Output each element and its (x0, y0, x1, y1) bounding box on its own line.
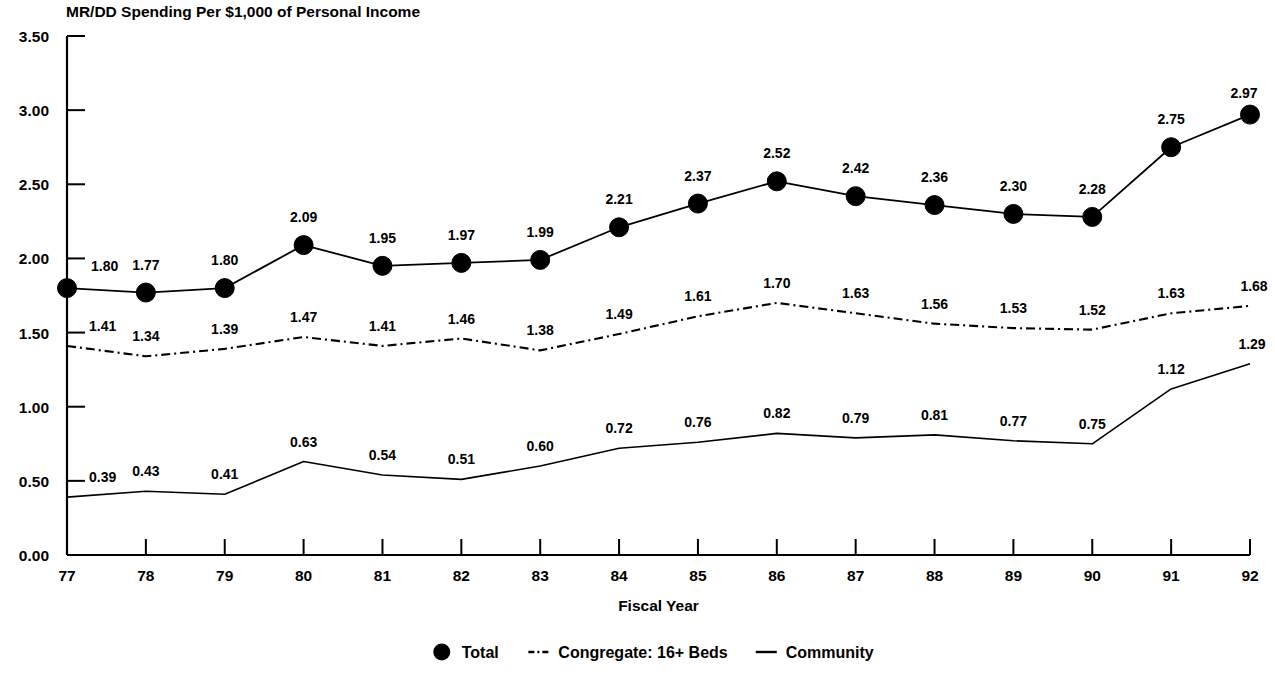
x-axis-tick-label: 83 (532, 567, 550, 584)
data-point-label: 0.60 (527, 438, 554, 454)
data-point-label: 2.75 (1158, 111, 1185, 127)
data-point-label: 0.76 (684, 414, 711, 430)
legend-label: Community (786, 644, 874, 661)
data-point-label: 2.09 (290, 209, 317, 225)
data-point-label: 1.52 (1079, 302, 1106, 318)
y-axis-tick-label: 2.50 (19, 176, 49, 193)
series-line-total (67, 115, 1250, 293)
data-point-marker (688, 194, 707, 213)
x-axis-tick-label: 92 (1241, 567, 1258, 584)
data-point-label: 1.47 (290, 309, 317, 325)
data-point-marker (294, 236, 313, 255)
data-point-label: 1.70 (763, 275, 790, 291)
data-point-label: 1.95 (369, 230, 396, 246)
data-point-label: 0.82 (763, 405, 790, 421)
x-axis-tick-label: 78 (137, 567, 155, 584)
data-point-marker (610, 218, 629, 237)
data-point-label: 1.41 (369, 318, 396, 334)
data-point-label: 2.37 (684, 168, 711, 184)
data-point-label: 1.80 (91, 258, 118, 274)
y-axis-tick-label: 1.50 (19, 325, 49, 342)
data-point-label: 2.30 (1000, 178, 1027, 194)
x-axis-tick-label: 85 (689, 567, 707, 584)
data-labels-layer: 1.801.771.802.091.951.971.992.212.372.52… (89, 85, 1268, 486)
chart-title: MR/DD Spending Per $1,000 of Personal In… (66, 3, 420, 20)
data-point-label: 1.97 (448, 227, 475, 243)
data-point-label: 0.77 (1000, 413, 1027, 429)
x-axis-tick-label: 87 (847, 567, 864, 584)
data-point-label: 1.49 (605, 306, 632, 322)
data-point-label: 2.42 (842, 160, 869, 176)
data-point-label: 0.54 (369, 447, 396, 463)
data-point-marker (846, 187, 865, 206)
x-axis-tick-label: 80 (295, 567, 312, 584)
data-point-label: 1.39 (211, 321, 238, 337)
filled-circle-icon (433, 644, 450, 661)
y-axis: 0.000.501.001.502.002.503.003.50 (19, 28, 85, 564)
y-axis-tick-label: 1.00 (19, 399, 49, 416)
x-axis-tick-label: 77 (58, 567, 75, 584)
data-point-label: 2.52 (763, 145, 790, 161)
x-axis-tick-label: 81 (374, 567, 392, 584)
x-axis: 77787980818283848586878889909192 (58, 539, 1258, 584)
data-point-marker (136, 283, 155, 302)
data-point-label: 1.46 (448, 311, 475, 327)
data-point-marker (452, 253, 471, 272)
data-point-label: 0.43 (132, 463, 159, 479)
data-point-label: 0.39 (89, 469, 116, 485)
data-point-label: 0.41 (211, 466, 238, 482)
data-point-label: 2.36 (921, 169, 948, 185)
y-axis-tick-label: 0.00 (19, 547, 49, 564)
line-chart: MR/DD Spending Per $1,000 of Personal In… (0, 0, 1275, 680)
data-point-label: 1.53 (1000, 300, 1027, 316)
x-axis-title: Fiscal Year (618, 597, 699, 614)
x-axis-tick-label: 90 (1084, 567, 1101, 584)
legend-label: Congregate: 16+ Beds (558, 644, 727, 661)
data-point-label: 1.12 (1158, 361, 1185, 377)
series-line-congregate-16-beds (67, 303, 1250, 356)
x-axis-tick-label: 79 (216, 567, 234, 584)
chart-legend: TotalCongregate: 16+ BedsCommunity (433, 644, 874, 662)
data-point-marker (373, 256, 392, 275)
y-axis-tick-label: 3.00 (19, 102, 49, 119)
data-point-label: 1.29 (1238, 336, 1265, 352)
legend-item-congregate-16-beds: Congregate: 16+ Beds (528, 644, 727, 661)
x-axis-tick-label: 84 (610, 567, 628, 584)
data-point-label: 1.56 (921, 296, 948, 312)
legend-item-total: Total (433, 644, 499, 662)
data-point-label: 1.99 (527, 224, 554, 240)
data-point-label: 0.81 (921, 407, 948, 423)
x-axis-tick-label: 88 (926, 567, 944, 584)
legend-label: Total (462, 644, 499, 661)
data-point-label: 0.72 (605, 420, 632, 436)
y-axis-tick-label: 0.50 (19, 473, 49, 490)
data-point-label: 1.34 (132, 328, 159, 344)
data-point-label: 0.63 (290, 434, 317, 450)
data-point-label: 2.28 (1079, 181, 1106, 197)
data-point-label: 1.63 (842, 285, 869, 301)
x-axis-tick-label: 89 (1005, 567, 1023, 584)
y-axis-tick-label: 3.50 (19, 28, 49, 45)
data-point-marker (1004, 204, 1023, 223)
data-point-label: 2.21 (605, 191, 632, 207)
data-point-label: 1.63 (1158, 285, 1185, 301)
legend-item-community: Community (756, 644, 874, 661)
data-point-label: 1.61 (684, 288, 711, 304)
chart-container: MR/DD Spending Per $1,000 of Personal In… (0, 0, 1275, 680)
series-line-community (67, 364, 1250, 497)
data-point-label: 1.41 (89, 318, 116, 334)
data-point-marker (531, 250, 550, 269)
x-axis-tick-label: 82 (453, 567, 470, 584)
x-axis-tick-label: 86 (768, 567, 786, 584)
data-point-label: 1.80 (211, 252, 238, 268)
data-point-marker (1083, 207, 1102, 226)
data-point-label: 1.68 (1240, 278, 1267, 294)
data-point-label: 0.51 (448, 451, 475, 467)
data-point-label: 1.77 (132, 257, 159, 273)
data-point-marker (215, 279, 234, 298)
data-point-marker (1241, 105, 1260, 124)
data-point-label: 2.97 (1230, 85, 1257, 101)
data-point-label: 0.79 (842, 410, 869, 426)
data-point-label: 1.38 (527, 322, 554, 338)
data-point-marker (925, 196, 944, 215)
